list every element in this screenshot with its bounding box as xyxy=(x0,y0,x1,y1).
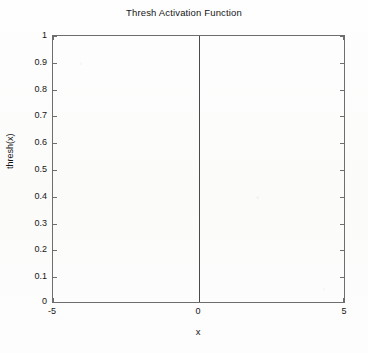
y-tick-label-0.1: 0.1 xyxy=(34,271,47,281)
plot-area xyxy=(52,35,345,303)
x-tick-label-5: 5 xyxy=(341,306,346,316)
y-tick-right-0.4 xyxy=(340,197,344,198)
x-axis-title: x xyxy=(196,326,201,337)
y-tick-0.7 xyxy=(53,116,57,117)
x-tick-top-5 xyxy=(343,36,344,40)
y-tick-label-0.8: 0.8 xyxy=(34,84,47,94)
y-tick-label-0.7: 0.7 xyxy=(34,110,47,120)
x-tick-5 xyxy=(343,298,344,302)
y-tick-label-0.6: 0.6 xyxy=(34,137,47,147)
y-tick-label-0.0: 0 xyxy=(42,296,47,306)
x-tick-label-0: 0 xyxy=(195,306,200,316)
y-tick-0.1 xyxy=(53,277,57,278)
y-tick-label-0.9: 0.9 xyxy=(34,57,47,67)
y-tick-label-0.5: 0.5 xyxy=(34,164,47,174)
x-tick--5 xyxy=(53,298,54,302)
y-axis-title: thresh(x) xyxy=(5,133,15,169)
series-line-thresh xyxy=(199,36,200,302)
y-tick-right-0.1 xyxy=(340,277,344,278)
x-tick-top--5 xyxy=(53,36,54,40)
y-tick-0.2 xyxy=(53,250,57,251)
y-tick-right-0.2 xyxy=(340,250,344,251)
y-tick-right-0.3 xyxy=(340,224,344,225)
y-tick-label-0.4: 0.4 xyxy=(34,191,47,201)
y-tick-label-0.3: 0.3 xyxy=(34,218,47,228)
y-tick-0.8 xyxy=(53,90,57,91)
y-tick-label-0.2: 0.2 xyxy=(34,244,47,254)
y-tick-right-0.6 xyxy=(340,143,344,144)
y-tick-0.6 xyxy=(53,143,57,144)
x-tick-label--5: -5 xyxy=(48,306,56,316)
chart-screenshot: Thresh Activation Function xyxy=(0,0,368,353)
y-tick-right-0.0 xyxy=(340,302,344,303)
y-tick-label-1.0: 1 xyxy=(42,30,47,40)
y-tick-right-0.9 xyxy=(340,63,344,64)
y-tick-right-0.5 xyxy=(340,170,344,171)
y-tick-right-0.8 xyxy=(340,90,344,91)
y-tick-0.3 xyxy=(53,224,57,225)
y-tick-0.0 xyxy=(53,302,57,303)
y-tick-right-0.7 xyxy=(340,116,344,117)
chart-title: Thresh Activation Function xyxy=(0,7,368,18)
y-tick-0.9 xyxy=(53,63,57,64)
y-tick-0.4 xyxy=(53,197,57,198)
y-tick-0.5 xyxy=(53,170,57,171)
